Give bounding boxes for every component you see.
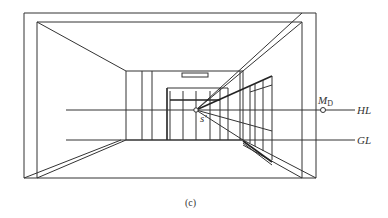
vanishing-point-marker (194, 108, 198, 112)
measuring-point-label: MD (317, 94, 333, 108)
back-wall (126, 71, 243, 140)
right-wall-windows (196, 71, 272, 165)
ground-line-label: GL (357, 134, 371, 146)
measuring-point-marker (321, 108, 326, 113)
figure-caption: (c) (185, 197, 196, 209)
horizon-line-label: HL (356, 104, 371, 116)
perspective-diagram: s' MD HL GL (c) (0, 0, 388, 218)
vanishing-point-label: s' (200, 112, 207, 124)
